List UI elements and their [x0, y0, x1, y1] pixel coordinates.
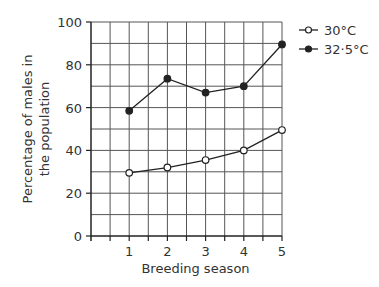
- y-axis-title-line-1: Percentage of males in: [20, 55, 35, 204]
- legend-marker: [306, 27, 312, 33]
- y-tick-label: 60: [65, 101, 82, 116]
- y-tick-label: 80: [65, 58, 82, 73]
- data-point: [202, 89, 209, 96]
- legend-label: 32·5°C: [324, 42, 369, 57]
- legend-label: 30°C: [324, 23, 356, 38]
- x-tick-label: 1: [125, 244, 133, 259]
- legend-marker: [306, 46, 312, 52]
- y-tick-label: 100: [57, 15, 82, 30]
- x-tick-label: 5: [278, 244, 286, 259]
- x-ticks: 12345: [110, 236, 286, 259]
- legend: 30°C32·5°C: [299, 23, 369, 57]
- x-tick-label: 2: [163, 244, 171, 259]
- data-point: [279, 41, 286, 48]
- data-point: [241, 147, 248, 154]
- data-point: [126, 108, 133, 115]
- grid: [91, 22, 282, 236]
- data-point: [164, 164, 171, 171]
- y-axis-title-line-2: the population: [37, 82, 52, 177]
- y-tick-label: 0: [74, 229, 82, 244]
- data-point: [202, 157, 209, 164]
- data-point: [126, 170, 133, 177]
- chart: 020406080100 12345 Breeding season Perce…: [0, 0, 379, 287]
- x-tick-label: 3: [201, 244, 209, 259]
- x-axis-title: Breeding season: [141, 261, 249, 276]
- data-point: [164, 75, 171, 82]
- x-tick-label: 4: [240, 244, 248, 259]
- data-point: [241, 83, 248, 90]
- y-ticks: 020406080100: [57, 15, 91, 244]
- y-tick-label: 40: [65, 143, 82, 158]
- y-tick-label: 20: [65, 186, 82, 201]
- data-point: [279, 127, 286, 134]
